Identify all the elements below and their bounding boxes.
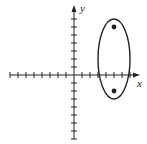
ellipse [98,19,130,99]
y-axis-arrow-icon [72,5,77,12]
axis-ticks [10,19,130,139]
y-axis-label: y [79,2,85,14]
focus-points [112,25,117,94]
coordinate-plane: x y [0,0,147,144]
focus-point [112,25,117,30]
focus-point [112,89,117,94]
x-axis-label: x [136,77,142,89]
